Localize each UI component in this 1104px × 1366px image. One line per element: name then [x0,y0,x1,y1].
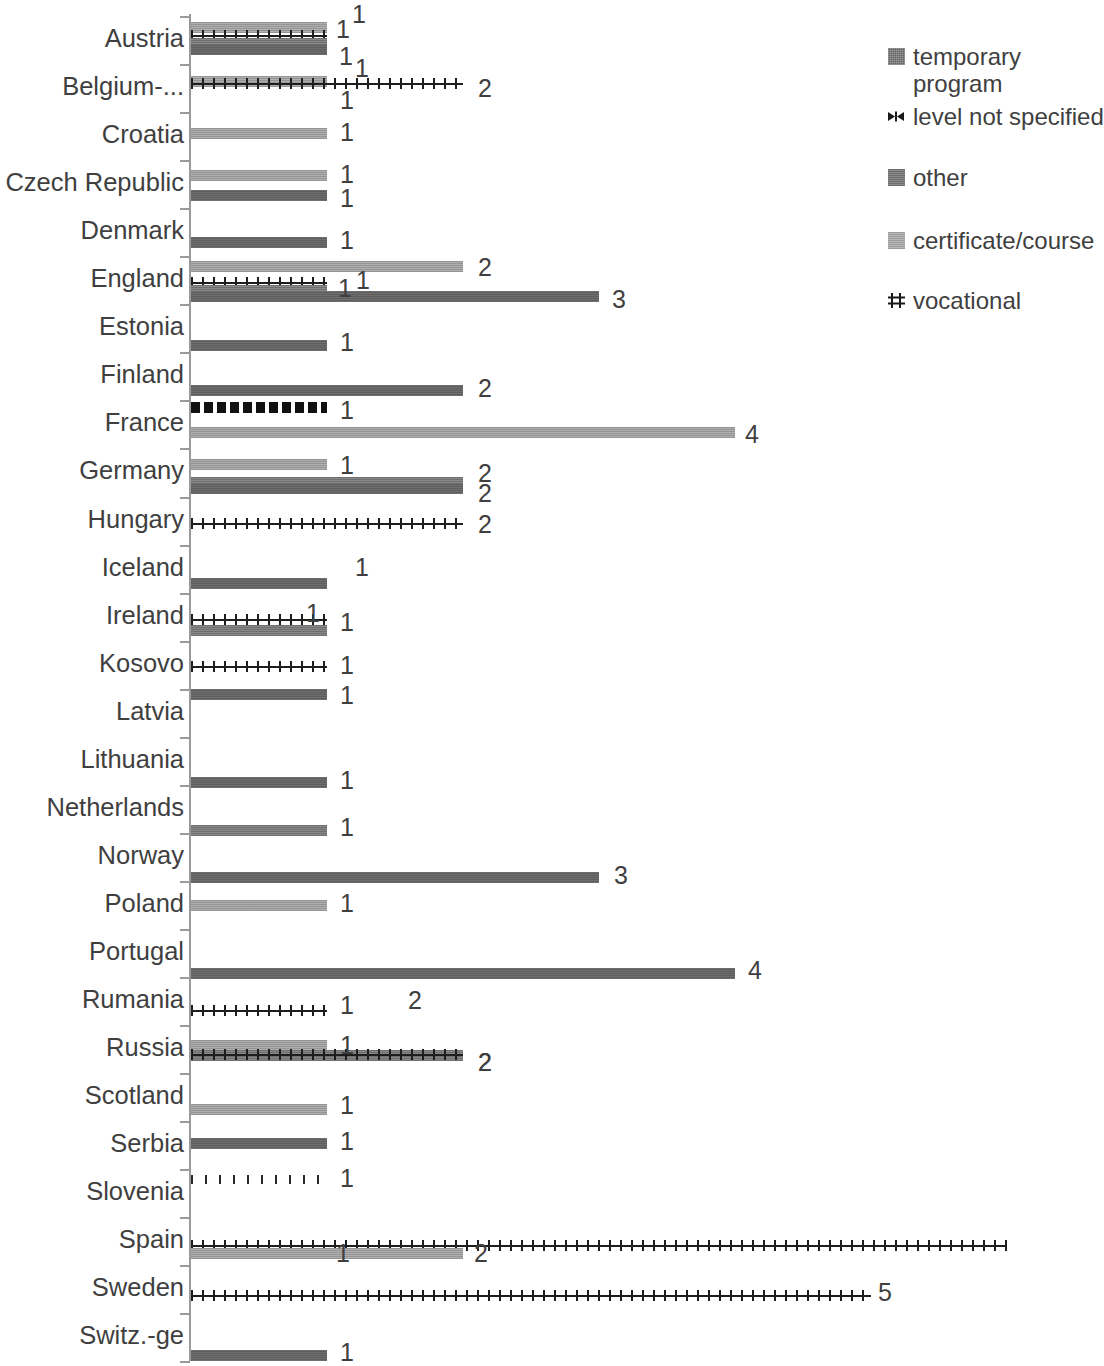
category-label-serbia: Serbia [110,1131,184,1157]
chart-legend: temporary programlevel not specifiedothe… [888,44,1104,329]
axis-tick [180,1025,190,1027]
bar-vocational-russia [191,1049,463,1060]
category-label-estonia: Estonia [99,314,184,340]
bar-value-label: 1 [340,768,354,793]
legend-item-level-not-specified[interactable]: level not specified [888,104,1104,131]
bar-value-label: 3 [614,863,628,888]
bar-temporary-program-norway [191,872,599,883]
bar-value-label: 4 [748,958,762,983]
bar-temporary-program-denmark [191,237,327,248]
bar-value-label: 1 [306,601,320,626]
category-label-croatia: Croatia [102,122,184,148]
bar-value-label: 1 [340,891,354,916]
bar-value-label: 1 [340,1093,354,1118]
legend-label: other [913,165,968,192]
legend-item-certificate-course[interactable]: certificate/course [888,228,1104,255]
axis-tick [180,785,190,787]
bar-value-label: 1 [340,1033,354,1058]
bar-temporary-program-finland [191,385,463,396]
bar-value-label: 1 [340,398,354,423]
bar-value-label: 1 [339,44,353,69]
bar-value-label: 2 [474,1241,488,1266]
category-label-norway: Norway [98,843,184,869]
legend-label: vocational [913,288,1021,315]
axis-tick [180,400,190,402]
bar-certificate-course-croatia [191,128,327,139]
category-label-latvia: Latvia [116,699,184,725]
axis-tick [180,448,190,450]
axis-tick [180,737,190,739]
axis-tick [180,304,190,306]
bar-temporary-program-lithuania [191,777,327,788]
category-label-kosovo: Kosovo [99,651,184,677]
other-icon [888,169,905,186]
axis-tick [180,689,190,691]
bar-value-label: 5 [878,1280,892,1305]
bar-value-label: 2 [408,988,422,1013]
axis-tick [180,1313,190,1315]
temporary-program-icon [888,48,905,65]
bar-value-label: 1 [338,276,352,301]
axis-tick [180,929,190,931]
axis-tick [180,1169,190,1171]
bar-value-label: 1 [340,683,354,708]
category-label-russia: Russia [106,1035,184,1061]
bar-temporary-program-estonia [191,340,327,351]
axis-tick [180,641,190,643]
category-label-england: England [90,266,184,292]
category-label-ireland: Ireland [106,603,184,629]
category-label-rumania: Rumania [82,987,184,1013]
bar-value-label: 1 [340,186,354,211]
bar-temporary-program-serbia [191,1138,327,1149]
bar-certificate-course-scotland [191,1104,327,1115]
category-label-finland: Finland [100,362,184,388]
category-label-portugal: Portugal [89,939,184,965]
bar-other-netherlands [191,825,327,836]
bar-temporary-program-switz-ge [191,1350,327,1361]
category-label-slovenia: Slovenia [86,1179,184,1205]
axis-tick [180,1361,190,1363]
bar-value-label: 1 [340,610,354,635]
bar-certificate-course-poland [191,900,327,911]
bar-level-not-specified-france [191,402,327,413]
bar-value-label: 2 [478,76,492,101]
bar-temporary-program-austria [191,44,327,55]
bar-temporary-program-england [191,291,599,302]
bar-vocational-sweden [191,1290,871,1301]
category-label-austria: Austria [105,26,184,52]
bar-value-label: 1 [336,1241,350,1266]
bar-temporary-program-iceland [191,578,327,589]
bar-value-label: 1 [340,653,354,678]
bar-value-label: 1 [340,1129,354,1154]
category-label-denmark: Denmark [81,218,184,244]
legend-item-vocational[interactable]: vocational [888,288,1104,315]
bar-temporary-program-latvia [191,689,327,700]
axis-tick [180,160,190,162]
axis-tick [180,833,190,835]
bar-value-label: 2 [478,255,492,280]
bar-value-label: 2 [478,481,492,506]
bar-vocational-slovenia [191,1175,327,1184]
category-label-sweden: Sweden [92,1275,184,1301]
bar-vocational-kosovo [191,661,327,672]
bar-value-label: 1 [340,453,354,478]
bar-value-label: 1 [340,993,354,1018]
bar-value-label: 1 [340,1166,354,1191]
axis-tick [180,1121,190,1123]
axis-tick [180,1217,190,1219]
bar-value-label: 1 [355,56,369,81]
bar-value-label: 2 [478,512,492,537]
bar-value-label: 1 [356,268,370,293]
bar-temporary-program-portugal [191,968,735,979]
legend-item-other[interactable]: other [888,165,1104,192]
category-label-hungary: Hungary [88,507,184,533]
legend-item-temporary-program[interactable]: temporary program [888,44,1104,98]
legend-label: certificate/course [913,228,1094,255]
bar-value-label: 2 [478,1050,492,1075]
axis-tick [180,881,190,883]
bar-value-label: 1 [340,88,354,113]
axis-tick [180,112,190,114]
bar-temporary-program-czech-republic [191,190,327,201]
bar-vocational-hungary [191,518,463,529]
